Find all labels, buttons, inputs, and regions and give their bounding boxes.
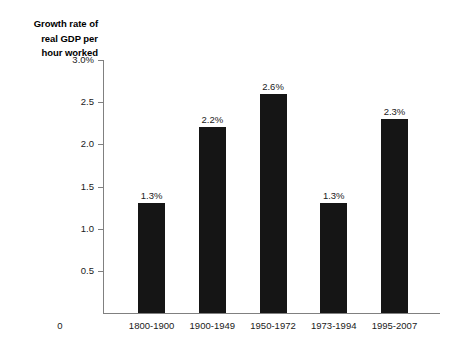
y-axis-tick-label: 0.5 [44, 266, 94, 276]
bar [199, 127, 226, 313]
bar-value-label: 2.6% [243, 81, 303, 92]
plot-area: 3.0%2.52.01.51.00.5 1.3%2.2%2.6%1.3%2.3% [103, 60, 440, 313]
y-axis-title-line-1: Growth rate of [14, 17, 98, 32]
y-axis-line [103, 60, 104, 313]
y-axis-tick-labels: 3.0%2.52.01.51.00.5 [44, 60, 94, 313]
x-axis-line [103, 313, 440, 314]
y-axis-origin-label: 0 [45, 320, 75, 331]
bar-value-label: 2.3% [364, 106, 424, 117]
bar [138, 203, 165, 313]
bar-value-label: 1.3% [304, 190, 364, 201]
bar-value-label: 1.3% [122, 190, 182, 201]
y-axis-tick-label: 2.5 [44, 97, 94, 107]
y-axis-tick [98, 229, 103, 230]
y-axis-tick [98, 271, 103, 272]
chart-figure: Growth rate of real GDP per hour worked … [0, 0, 465, 351]
bar-value-label: 2.2% [182, 114, 242, 125]
x-axis-category-label: 1995-2007 [354, 320, 434, 331]
y-axis-tick-label: 3.0% [44, 55, 94, 65]
y-axis-tick [98, 102, 103, 103]
bar [260, 94, 287, 313]
y-axis-tick [98, 187, 103, 188]
y-axis-title-line-2: real GDP per [14, 32, 98, 47]
y-axis-tick-label: 1.0 [44, 224, 94, 234]
y-axis-tick-label: 1.5 [44, 182, 94, 192]
bar [320, 203, 347, 313]
bar [381, 119, 408, 313]
y-axis-tick [98, 144, 103, 145]
y-axis-tick [98, 60, 103, 61]
y-axis-tick-label: 2.0 [44, 139, 94, 149]
